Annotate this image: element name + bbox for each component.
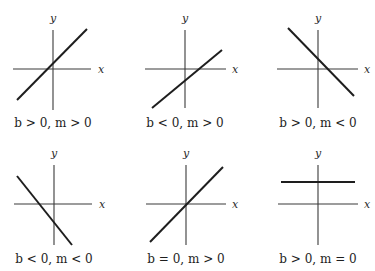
x-axis-label: x	[364, 198, 371, 211]
y-axis-label: y	[182, 147, 190, 160]
x-axis-label: x	[364, 63, 371, 76]
x-axis-label: x	[232, 63, 239, 76]
panel-caption: b > 0, m > 0	[14, 116, 91, 130]
x-axis-label: x	[232, 198, 239, 211]
x-axis-label: x	[99, 198, 106, 211]
panel-b-neg-m-pos: y x b < 0, m > 0	[145, 12, 239, 130]
panel-b-pos-m-neg: y x b > 0, m < 0	[277, 12, 371, 130]
graph-line	[17, 29, 87, 100]
y-axis-label: y	[49, 12, 57, 25]
panel-b-neg-m-neg: y x b < 0, m < 0	[14, 147, 106, 266]
graph-line	[17, 176, 72, 245]
y-axis-label: y	[314, 12, 322, 25]
graph-line	[152, 50, 222, 108]
graph-line	[288, 28, 354, 96]
panel-caption: b = 0, m > 0	[147, 252, 224, 266]
y-axis-label: y	[50, 147, 58, 160]
panel-b-zero-m-pos: y x b = 0, m > 0	[146, 147, 239, 266]
panel-caption: b < 0, m > 0	[146, 116, 223, 130]
panel-b-pos-m-pos: y x b > 0, m > 0	[13, 12, 105, 130]
panel-b-pos-m-zero: y x b > 0, m = 0	[278, 147, 371, 266]
panel-caption: b < 0, m < 0	[15, 252, 92, 266]
x-axis-label: x	[98, 63, 105, 76]
panel-caption: b > 0, m < 0	[279, 116, 356, 130]
y-axis-label: y	[181, 12, 189, 25]
line-graphs-figure: y x b > 0, m > 0 y x b < 0, m > 0 y x b …	[0, 0, 375, 271]
y-axis-label: y	[314, 147, 322, 160]
panel-caption: b > 0, m = 0	[279, 252, 356, 266]
